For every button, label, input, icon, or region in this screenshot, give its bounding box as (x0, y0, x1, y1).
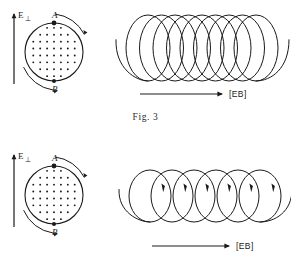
field-dot (67, 48, 69, 50)
field-dot (60, 27, 62, 29)
e-perp-arrowhead (12, 13, 17, 18)
field-dot (39, 184, 41, 186)
field-dot (60, 211, 62, 213)
field-dot (74, 191, 76, 193)
field-dot (53, 184, 55, 186)
figure-panel-top: ABE⊥[EB] (0, 0, 291, 110)
field-dot (53, 177, 55, 179)
tight-helix-diagram: ABE⊥[EB] (0, 0, 291, 110)
field-dot (60, 75, 62, 77)
helix-entry-tail (116, 40, 148, 81)
field-dot (39, 34, 41, 36)
field-dot (46, 184, 48, 186)
helix-entry-tail (119, 190, 150, 223)
field-dot (46, 61, 48, 63)
field-dot (32, 55, 34, 57)
field-dot (67, 41, 69, 43)
helix-group (119, 170, 291, 222)
field-dot (53, 68, 55, 70)
helix-loop (129, 170, 171, 222)
field-dot (74, 48, 76, 50)
field-dot (67, 198, 69, 200)
field-dot (67, 177, 69, 179)
beam-cross-section-circle (25, 23, 83, 81)
field-dot (53, 211, 55, 213)
field-dot (67, 191, 69, 193)
field-dot (74, 198, 76, 200)
field-dot (60, 204, 62, 206)
field-dot (53, 198, 55, 200)
field-dot (67, 211, 69, 213)
field-dot (60, 170, 62, 172)
field-dot (53, 191, 55, 193)
field-dot (53, 27, 55, 29)
field-dot (60, 61, 62, 63)
drift-velocity-label: [EB] (229, 89, 247, 99)
helix-direction-arrowhead (161, 184, 165, 193)
field-dot (67, 55, 69, 57)
drift-arrowhead (224, 244, 230, 249)
point-a-label: A (51, 10, 58, 20)
field-dot (46, 55, 48, 57)
field-dot (60, 34, 62, 36)
helix-loop (151, 170, 193, 222)
field-dot (46, 68, 48, 70)
helix-loop (180, 15, 224, 81)
field-dot (74, 41, 76, 43)
field-dot (46, 177, 48, 179)
helix-exit-tail (260, 190, 291, 223)
field-dot (53, 61, 55, 63)
point-a-marker (52, 164, 57, 169)
helix-direction-arrowhead (271, 184, 275, 193)
field-dot (53, 34, 55, 36)
helix-loop (239, 170, 281, 222)
field-dot (39, 204, 41, 206)
helix-direction-arrowhead (249, 184, 253, 193)
helix-loop (153, 15, 197, 81)
helix-loop (221, 15, 265, 81)
field-dot (46, 218, 48, 220)
point-a-marker (52, 21, 57, 26)
field-dot (46, 191, 48, 193)
field-dot (53, 55, 55, 57)
field-dot (32, 41, 34, 43)
field-dot (60, 177, 62, 179)
helix-loop (167, 15, 211, 81)
field-dot (60, 218, 62, 220)
point-a-label: A (51, 153, 58, 163)
field-dot (39, 48, 41, 50)
cross-section-group: AB (24, 153, 88, 237)
field-dot (74, 184, 76, 186)
field-dot (46, 204, 48, 206)
helix-loop (194, 15, 238, 81)
field-dot (32, 61, 34, 63)
field-dot (74, 61, 76, 63)
helix-direction-arrowhead (205, 184, 209, 193)
drift-arrow-group: [EB] (140, 89, 247, 99)
field-dot (53, 204, 55, 206)
field-dot (39, 191, 41, 193)
field-dot (46, 34, 48, 36)
helix-loop (173, 170, 215, 222)
field-dot (32, 204, 34, 206)
field-dot (67, 68, 69, 70)
figure-page: ABE⊥[EB] Fig. 3 ABE⊥[EB] (0, 0, 291, 278)
field-dot (39, 211, 41, 213)
field-dot (60, 55, 62, 57)
field-dot (53, 48, 55, 50)
field-dot (32, 191, 34, 193)
helix-exit-tail (256, 40, 289, 81)
field-dot (46, 75, 48, 77)
field-dot (39, 41, 41, 43)
helix-direction-arrowhead (227, 184, 231, 193)
helix-group (116, 15, 289, 81)
figure-panel-bottom: ABE⊥[EB] (0, 139, 291, 249)
field-dot-lattice (32, 27, 75, 77)
loose-helix-diagram: ABE⊥[EB] (0, 139, 291, 278)
drift-arrowhead (217, 92, 223, 97)
helix-loop (217, 170, 259, 222)
field-dot (46, 170, 48, 172)
field-dot (39, 198, 41, 200)
point-b-marker (52, 222, 56, 226)
figure-caption: Fig. 3 (0, 112, 291, 122)
